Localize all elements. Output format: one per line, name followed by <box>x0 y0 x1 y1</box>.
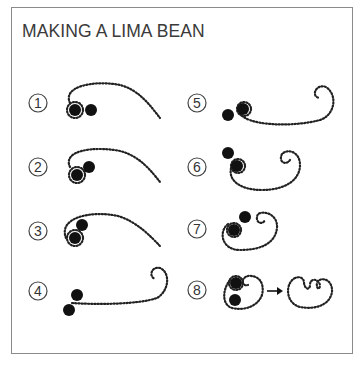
step-number-badge: 5 <box>188 94 206 112</box>
step-6: 6 <box>188 147 300 190</box>
ball <box>69 232 81 244</box>
step-number-badge: 4 <box>29 282 47 300</box>
arrow-right-icon <box>267 287 283 295</box>
step-4: 4 <box>29 268 167 316</box>
svg-text:5: 5 <box>193 95 201 111</box>
lima-bean-steps-diagram: .dot { fill:none; stroke:#222; stroke-wi… <box>0 0 363 368</box>
step-5: 5 <box>188 86 333 124</box>
svg-text:6: 6 <box>193 159 201 175</box>
svg-text:8: 8 <box>193 282 201 298</box>
ball <box>237 103 249 115</box>
dotted-strand <box>231 151 300 190</box>
svg-text:1: 1 <box>34 95 42 111</box>
ball <box>222 109 234 121</box>
step-number-badge: 2 <box>29 158 47 176</box>
step-3: 3 <box>29 214 160 246</box>
dotted-strand <box>72 268 167 304</box>
svg-text:3: 3 <box>34 223 42 239</box>
step-8: 8 <box>188 276 332 309</box>
ball <box>83 161 95 173</box>
step-2: 2 <box>29 149 160 183</box>
ball <box>69 104 81 116</box>
lima-bean-result <box>288 277 332 308</box>
step-number-badge: 3 <box>29 222 47 240</box>
step-number-badge: 6 <box>188 158 206 176</box>
step-1: 1 <box>29 83 160 118</box>
ball <box>239 211 251 223</box>
step-number-badge: 1 <box>29 94 47 112</box>
svg-text:7: 7 <box>193 221 201 237</box>
ball <box>228 224 240 236</box>
ball <box>63 304 75 316</box>
step-number-badge: 7 <box>188 220 206 238</box>
ball <box>71 289 83 301</box>
ball <box>230 277 242 289</box>
ball <box>71 169 83 181</box>
ball <box>85 104 97 116</box>
svg-text:4: 4 <box>34 283 42 299</box>
step-number-badge: 8 <box>188 281 206 299</box>
ball <box>229 294 241 306</box>
svg-text:2: 2 <box>34 159 42 175</box>
ball <box>222 147 234 159</box>
step-7: 7 <box>188 211 277 250</box>
ball <box>231 160 243 172</box>
dotted-strand <box>240 86 333 124</box>
ball <box>76 219 88 231</box>
